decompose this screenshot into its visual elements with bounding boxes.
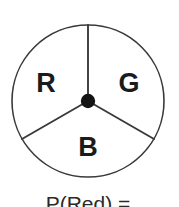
spinner-hub-icon: [81, 94, 95, 108]
sector-label-r: R: [36, 68, 56, 98]
spinner-screenshot: R G B P(Red) =: [0, 0, 179, 207]
sector-label-g: G: [118, 68, 139, 98]
caption-probability-red: P(Red) =: [46, 192, 131, 207]
spinner-figure: R G B P(Red) =: [0, 0, 179, 207]
spinner-svg: R G B P(Red) =: [0, 0, 179, 207]
sector-label-b: B: [78, 132, 98, 162]
